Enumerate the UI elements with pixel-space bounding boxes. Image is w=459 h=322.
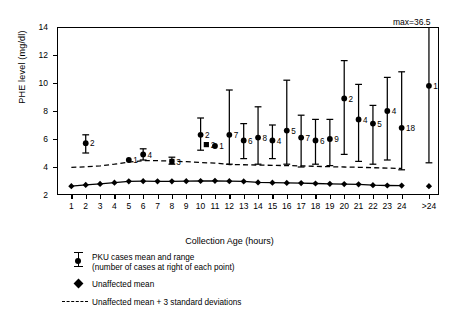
unaffected-mean-diamond	[226, 178, 232, 184]
y-axis-title: PHE level (mg/dl)	[17, 0, 27, 137]
x-axis-title: Collection Age (hours)	[0, 236, 459, 246]
pku-mean-marker	[384, 108, 390, 114]
x-tick-mark	[387, 195, 388, 199]
legend-pku-line2: (number of cases at right of each point)	[92, 263, 234, 273]
unaffected-mean-diamond	[140, 178, 146, 184]
pku-case-count-label: 2	[205, 131, 210, 140]
unaffected-mean-diamond	[327, 181, 333, 187]
pku-case-count-label: 6	[320, 137, 325, 146]
x-tick-mark	[359, 195, 360, 199]
x-tick-mark	[186, 195, 187, 199]
unaffected-mean-diamond	[269, 180, 275, 186]
legend-item-unaffected-mean: Unaffected mean	[66, 279, 366, 290]
legend-pku-line1: PKU cases mean and range	[92, 253, 194, 262]
dashed-line-marker-icon	[66, 297, 92, 308]
unaffected-mean-diamond	[111, 180, 117, 186]
pku-mean-marker	[255, 135, 261, 141]
unaffected-mean-diamond	[284, 180, 290, 186]
x-tick-mark	[143, 195, 144, 199]
x-tick-mark	[402, 195, 403, 199]
pku-case-count-label: 5	[291, 127, 296, 136]
x-tick-mark	[86, 195, 87, 199]
legend-unaffected-line1: Unaffected mean	[92, 280, 154, 289]
pku-range-marker-icon	[66, 252, 92, 268]
unaffected-mean-diamond	[426, 183, 432, 189]
unaffected-mean-diamond	[68, 183, 74, 189]
pku-case-count-label: 5	[377, 120, 382, 129]
pku-mean-marker	[83, 140, 89, 146]
x-tick-mark	[244, 195, 245, 199]
x-tick-mark	[344, 195, 345, 199]
y-tick-label: 2	[26, 191, 48, 199]
unaffected-mean-diamond	[355, 181, 361, 187]
pku-mean-marker	[284, 128, 290, 134]
unaffected-mean-diamond	[312, 180, 318, 186]
x-tick-mark	[315, 195, 316, 199]
pku-case-count-label: 2	[349, 95, 354, 104]
x-tick-mark	[258, 195, 259, 199]
unaffected-mean-diamond	[384, 182, 390, 188]
pku-case-count-label: 4	[363, 116, 368, 125]
unaffected-mean-diamond	[399, 183, 405, 189]
unaffected-mean-diamond	[83, 182, 89, 188]
pku-case-count-label: 188	[433, 82, 439, 91]
pku-mean-marker	[198, 132, 204, 138]
y-tick-label: 6	[26, 135, 48, 143]
pku-mean-marker	[241, 138, 247, 144]
legend-item-unaffected-sd: Unaffected mean + 3 standard deviations	[66, 297, 366, 308]
chart-legend: PKU cases mean and range (number of case…	[66, 252, 366, 315]
x-tick-mark	[201, 195, 202, 199]
pku-case-count-label: 3	[176, 158, 181, 167]
unaffected-mean-diamond	[198, 178, 204, 184]
unaffected-mean-line	[71, 181, 401, 186]
unaffected-mean-diamond	[212, 178, 218, 184]
diamond-marker-icon	[66, 279, 92, 290]
pku-case-count-label: 4	[277, 137, 282, 146]
legend-item-pku-cases: PKU cases mean and range (number of case…	[66, 252, 366, 272]
x-tick-mark	[215, 195, 216, 199]
unaffected-mean-diamond	[126, 178, 132, 184]
x-tick-mark	[229, 195, 230, 199]
pku-mean-marker	[426, 83, 432, 89]
pku-mean-marker	[226, 132, 232, 138]
x-tick-mark	[158, 195, 159, 199]
y-tick-label: 8	[26, 107, 48, 115]
pku-mean-marker	[356, 117, 362, 123]
pku-mean-marker	[313, 138, 319, 144]
pku-mean-marker	[298, 135, 304, 141]
pku-case-count-label: 2	[90, 139, 95, 148]
pku-case-count-label: 4	[392, 107, 397, 116]
x-tick-mark	[330, 195, 331, 199]
pku-mean-marker	[212, 143, 218, 149]
y-tick-label: 14	[26, 23, 48, 31]
pku-case-count-label: 18	[406, 124, 416, 133]
pku-mean-marker	[140, 152, 146, 158]
unaffected-mean-diamond	[370, 182, 376, 188]
pku-case-count-label: 1	[219, 142, 224, 151]
max-value-annotation: max=36.5	[393, 17, 431, 27]
pku-case-count-label: 8	[262, 134, 267, 143]
pku-case-count-label: 7	[234, 131, 239, 140]
phe-level-chart-figure: PHE level (mg/dl) 1412108642 21432217684…	[0, 0, 459, 322]
legend-item-unaffected-mean-label: Unaffected mean	[92, 279, 154, 290]
unaffected-mean-diamond	[169, 178, 175, 184]
pku-case-count-label: 7	[306, 134, 311, 143]
pku-case-count-label: 1	[133, 156, 138, 165]
unaffected-mean-diamond	[183, 178, 189, 184]
x-tick-mark	[114, 195, 115, 199]
x-tick-mark	[373, 195, 374, 199]
pku-mean-marker	[327, 136, 333, 142]
pku-mean-marker	[399, 125, 405, 131]
x-tick-mark	[287, 195, 288, 199]
x-tick-label: 24	[391, 202, 413, 211]
unaffected-mean-diamond	[154, 178, 160, 184]
y-tick-label: 12	[26, 51, 48, 59]
legend-item-unaffected-sd-label: Unaffected mean + 3 standard deviations	[92, 297, 241, 308]
plot-data-layer: 214322176845769245418188	[57, 27, 439, 195]
unaffected-mean-diamond	[97, 181, 103, 187]
legend-sd-line1: Unaffected mean + 3 standard deviations	[92, 298, 241, 307]
legend-item-pku-cases-label: PKU cases mean and range (number of case…	[92, 252, 234, 272]
x-tick-mark	[172, 195, 173, 199]
pku-mean-marker	[270, 138, 276, 144]
plot-svg: 214322176845769245418188	[57, 27, 439, 195]
